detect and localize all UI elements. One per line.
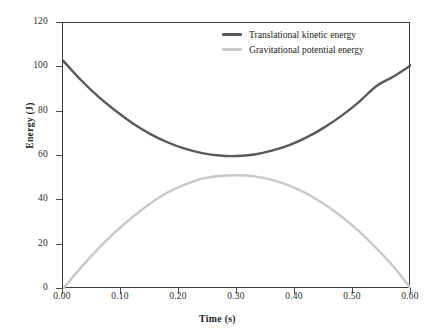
x-tick-mark xyxy=(120,288,121,294)
legend-swatch-icon xyxy=(222,33,242,36)
plot-area xyxy=(62,22,410,288)
x-tick-mark xyxy=(352,288,353,294)
x-axis-title: Time (s) xyxy=(0,313,435,324)
y-tick-label: 80 xyxy=(14,106,48,116)
series-line xyxy=(63,175,411,289)
x-tick-mark xyxy=(236,288,237,294)
y-tick-label: 100 xyxy=(14,61,48,71)
x-tick-mark xyxy=(294,288,295,294)
legend-item: Gravitational potential energy xyxy=(222,43,364,56)
energy-vs-time-chart: Energy (J) 020406080100120 0.000.100.200… xyxy=(0,0,435,336)
y-tick-label: 20 xyxy=(14,239,48,249)
y-tick-label: 60 xyxy=(14,150,48,160)
legend-swatch-icon xyxy=(222,48,242,51)
x-tick-mark xyxy=(62,288,63,294)
y-tick-label: 40 xyxy=(14,194,48,204)
x-tick-mark xyxy=(410,288,411,294)
series-line xyxy=(63,61,411,156)
legend-label: Gravitational potential energy xyxy=(249,44,364,55)
y-axis-title: Energy (J) xyxy=(24,71,35,181)
chart-legend: Translational kinetic energyGravitationa… xyxy=(222,28,364,58)
legend-label: Translational kinetic energy xyxy=(249,29,356,40)
y-tick-label: 120 xyxy=(14,17,48,27)
x-tick-mark xyxy=(178,288,179,294)
legend-item: Translational kinetic energy xyxy=(222,28,364,41)
plot-curves xyxy=(63,23,411,289)
